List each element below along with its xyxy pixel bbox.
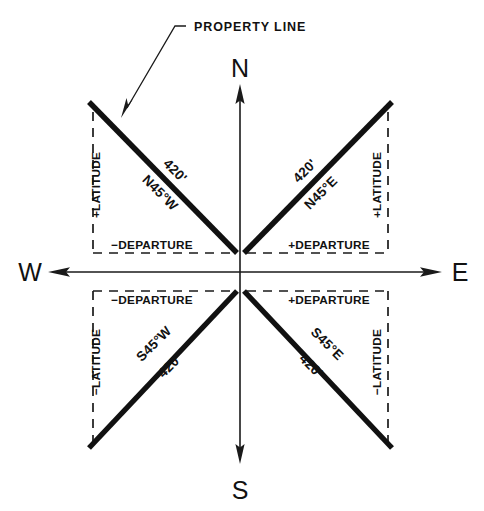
se-latitude-label: −LATITUDE — [370, 329, 384, 395]
diagram-canvas: N S W E +LATITUDE −DEPARTURE 420' N45°W — [0, 0, 484, 511]
compass-axes — [48, 84, 442, 464]
cardinal-label-south: S — [232, 476, 249, 504]
nw-property-line — [89, 102, 237, 253]
callout-arrow-icon — [121, 98, 133, 118]
cardinal-label-west: W — [18, 258, 42, 286]
se-departure-label: +DEPARTURE — [288, 293, 369, 307]
ne-bearing-label: N45°E — [301, 173, 340, 212]
cardinal-label-north: N — [231, 54, 249, 82]
property-line-label: PROPERTY LINE — [194, 20, 306, 34]
ne-latitude-label: +LATITUDE — [370, 152, 384, 218]
sw-latitude-label: −LATITUDE — [89, 329, 103, 395]
property-line-callout: PROPERTY LINE — [121, 20, 306, 118]
survey-bearing-diagram: N S W E +LATITUDE −DEPARTURE 420' N45°W — [0, 0, 484, 511]
sw-departure-label: −DEPARTURE — [111, 293, 192, 307]
callout-leader-line — [127, 26, 186, 108]
quadrant-northwest: +LATITUDE −DEPARTURE 420' N45°W — [89, 102, 237, 253]
quadrant-southwest: −LATITUDE −DEPARTURE S45°W 420' — [89, 291, 237, 448]
cardinal-label-east: E — [452, 258, 469, 286]
ne-departure-label: +DEPARTURE — [288, 238, 369, 252]
quadrant-northeast: +LATITUDE +DEPARTURE 420' N45°E — [244, 102, 392, 253]
quadrant-southeast: −LATITUDE +DEPARTURE S45°E 420' — [244, 291, 392, 448]
nw-latitude-label: +LATITUDE — [89, 152, 103, 218]
nw-departure-label: −DEPARTURE — [111, 238, 192, 252]
